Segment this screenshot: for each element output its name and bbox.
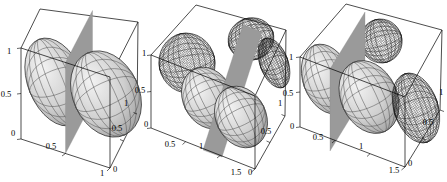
plot-panel-1: 1 0.5 0 0.5 1 0 0.5 1 [1, 9, 155, 178]
x-tick-label: 0.5 [165, 139, 176, 149]
three-3d-plots-figure: 1 0.5 0 0.5 1 0 0.5 1 1 0.5 0 0.5 1 1.5 … [0, 0, 447, 182]
z-tick-label: 0.5 [283, 88, 294, 98]
z-tick-label: 0.5 [135, 85, 146, 95]
y-tick-label: 0.5 [112, 123, 123, 133]
z-tick-label: 1 [142, 48, 146, 58]
z-tick-label: 0 [11, 128, 15, 138]
plot-panel-3: 1 0.5 0 0.5 1 1.5 0 0.5 1 [283, 4, 447, 175]
y-tick-label: 0 [113, 164, 117, 174]
y-tick-label: 1 [439, 87, 443, 97]
x-tick-label: 1.5 [389, 165, 400, 175]
z-tick-label: 1 [7, 46, 11, 56]
plot-panel-2: 1 0.5 0 0.5 1 1.5 0 0.5 1 [135, 5, 296, 177]
z-tick-label: 0 [290, 121, 294, 131]
figure-canvas: 1 0.5 0 0.5 1 0 0.5 1 1 0.5 0 0.5 1 1.5 … [0, 0, 447, 182]
z-tick-label: 0.5 [1, 89, 12, 99]
y-tick-label: 1 [124, 98, 128, 108]
ellipsoid-wire-right [384, 67, 447, 149]
x-tick-label: 1.5 [231, 167, 242, 177]
x-tick-label: 0.5 [313, 132, 324, 142]
y-tick-label: 0.5 [423, 117, 434, 127]
y-tick-label: 0 [408, 158, 412, 168]
y-tick-label: 0.5 [261, 126, 272, 136]
x-tick-label: 0.5 [46, 141, 57, 151]
x-tick-label: 1 [100, 168, 104, 178]
x-tick-label: 1 [199, 141, 203, 151]
z-tick-label: 1 [289, 52, 293, 62]
y-tick-label: 0 [248, 167, 252, 177]
y-tick-label: 1 [278, 98, 282, 108]
z-tick-label: 0 [144, 119, 148, 129]
x-tick-label: 1 [359, 141, 363, 151]
